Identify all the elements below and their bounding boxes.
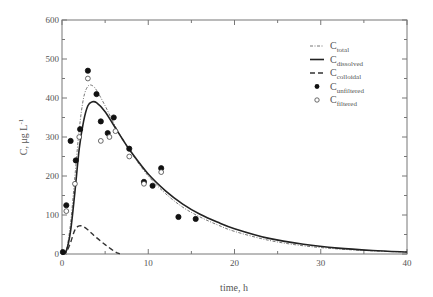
point-filtered [127,154,132,159]
point-unfiltered [78,127,83,132]
y-tick-label: 600 [46,15,60,25]
x-tick-label: 10 [144,258,154,268]
point-filtered [73,181,78,186]
x-tick-label: 0 [60,258,65,268]
x-tick-label: 30 [316,258,326,268]
y-tick-label: 100 [46,210,60,220]
point-unfiltered [176,214,181,219]
point-unfiltered [98,119,103,124]
point-filtered [107,135,112,140]
point-filtered [85,76,90,81]
legend-item-filtered: Cfiltered [315,94,358,108]
y-axis-label-main: C, μg L [18,125,29,156]
y-tick-label: 500 [46,54,60,64]
svg-text:Cunfiltered: Cunfiltered [330,81,364,95]
svg-text:Cdissolved: Cdissolved [330,54,364,68]
point-unfiltered [64,203,69,208]
point-unfiltered [85,68,90,73]
y-axis-label-sup: -1 [17,118,25,124]
point-unfiltered [60,249,65,254]
legend-item-dissolved: Cdissolved [310,54,364,68]
legend-item-colloidal: Ccolloidal [310,67,361,81]
svg-text:Ccolloidal: Ccolloidal [330,67,361,81]
y-axis-label: C, μg L-1 [17,118,29,155]
legend: CtotalCdissolvedCcolloidalCunfilteredCfi… [310,40,364,108]
point-unfiltered [150,183,155,188]
point-filtered [77,135,82,140]
legend-item-unfiltered: Cunfiltered [315,81,365,95]
svg-text:Ctotal: Ctotal [330,40,349,54]
point-unfiltered [111,115,116,120]
series-lines [62,85,407,254]
series-points [60,68,198,255]
y-tick-label: 400 [46,93,60,103]
svg-text:Cfiltered: Cfiltered [330,94,357,108]
y-tick-label: 300 [46,132,60,142]
point-unfiltered [68,138,73,143]
legend-item-total: Ctotal [310,40,349,54]
point-unfiltered [73,158,78,163]
y-tick-label: 0 [55,249,60,259]
y-tick-label: 200 [46,171,60,181]
x-tick-label: 40 [403,258,413,268]
chart: 0102030400100200300400500600 CtotalCdiss… [0,0,433,297]
point-filtered [98,139,103,144]
point-unfiltered [127,146,132,151]
point-filtered [142,181,147,186]
svg-text:C, μg L-1: C, μg L-1 [17,118,29,155]
x-tick-label: 20 [230,258,240,268]
point-filtered [113,129,118,134]
point-filtered [159,170,164,175]
plot-frame [62,20,407,254]
point-filtered [64,209,69,214]
x-axis-label: time, h [220,282,248,293]
point-unfiltered [193,216,198,221]
point-unfiltered [94,92,99,97]
